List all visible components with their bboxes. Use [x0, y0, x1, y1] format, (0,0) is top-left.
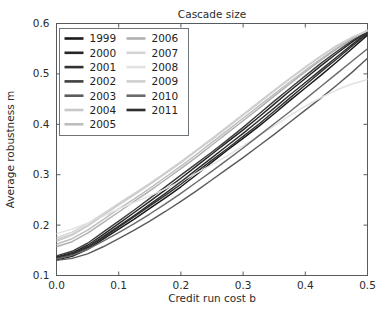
- cascade-size-line-chart: 0.00.10.20.30.40.50.10.20.30.40.50.6Casc…: [0, 0, 388, 317]
- legend-label-2007: 2007: [152, 47, 179, 59]
- legend-label-2010: 2010: [152, 90, 179, 102]
- x-tick-label: 0.1: [110, 279, 127, 291]
- x-tick-label: 0.3: [235, 279, 252, 291]
- y-tick-label: 0.6: [33, 17, 50, 29]
- legend-label-2011: 2011: [152, 104, 179, 116]
- y-tick-label: 0.3: [33, 168, 50, 180]
- y-tick-label: 0.4: [33, 118, 50, 130]
- legend-label-2009: 2009: [152, 75, 179, 87]
- legend-label-2006: 2006: [152, 32, 179, 44]
- legend-label-2008: 2008: [152, 61, 179, 73]
- x-tick-label: 0.0: [48, 279, 65, 291]
- y-axis-title: Average robustness m: [4, 91, 16, 209]
- x-axis-title: Credit run cost b: [168, 292, 256, 304]
- y-tick-label: 0.2: [33, 219, 50, 231]
- x-tick-label: 0.2: [173, 279, 190, 291]
- legend-label-2000: 2000: [90, 47, 117, 59]
- chart-figure: 0.00.10.20.30.40.50.10.20.30.40.50.6Casc…: [0, 0, 388, 317]
- legend-label-2001: 2001: [90, 61, 117, 73]
- x-tick-label: 0.4: [297, 279, 314, 291]
- y-tick-label: 0.5: [33, 67, 50, 79]
- legend-label-2005: 2005: [90, 118, 117, 130]
- legend-label-2002: 2002: [90, 75, 117, 87]
- x-tick-label: 0.5: [359, 279, 376, 291]
- legend-label-2004: 2004: [90, 104, 117, 116]
- legend-label-2003: 2003: [90, 90, 117, 102]
- chart-title: Cascade size: [178, 8, 246, 20]
- legend-label-1999: 1999: [90, 32, 117, 44]
- y-tick-label: 0.1: [33, 269, 50, 281]
